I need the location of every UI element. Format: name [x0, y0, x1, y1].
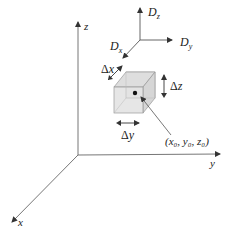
delta-x-label: Δx	[101, 62, 115, 76]
point-label: (x₀, y₀, z₀)	[165, 135, 209, 148]
dx-label: Dx	[109, 39, 123, 55]
diagram-canvas: z y x Dz Dy Dx Δx Δz	[0, 0, 231, 236]
point-callout: (x₀, y₀, z₀)	[141, 97, 209, 148]
y-axis-label: y	[209, 157, 215, 169]
dy-label: Dy	[179, 35, 193, 51]
delta-y-label: Δy	[121, 128, 135, 142]
dz-label: Dz	[147, 5, 161, 21]
center-point	[133, 91, 137, 95]
x-axis	[12, 155, 78, 222]
callout-line	[141, 97, 171, 135]
delta-z-label: Δz	[170, 79, 183, 93]
x-axis-label: x	[17, 216, 23, 228]
dx-arrow	[123, 40, 140, 58]
z-axis-label: z	[83, 20, 89, 32]
y-axis	[78, 154, 220, 155]
dispersion-triad: Dz Dy Dx	[109, 5, 193, 58]
